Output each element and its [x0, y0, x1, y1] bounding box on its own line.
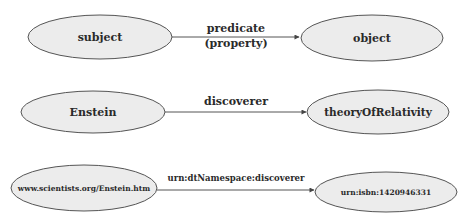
subject-node-label: Enstein	[70, 106, 117, 119]
object-node-label: object	[353, 32, 392, 45]
object-node-label: urn:isbn:1420946331	[341, 188, 431, 197]
triple-row-3: www.scientists.org/Enstein.htm urn:dtNam…	[11, 165, 457, 212]
predicate-sublabel: (property)	[204, 37, 267, 50]
subject-node-label: www.scientists.org/Enstein.htm	[17, 184, 150, 193]
subject-node-label: subject	[78, 31, 124, 44]
triple-row-1: subject predicate (property) object	[28, 15, 443, 61]
predicate-label: discoverer	[204, 95, 268, 108]
object-node-label: theoryOfRelativity	[324, 106, 432, 118]
rdf-triple-diagram: subject predicate (property) object Enst…	[0, 0, 469, 222]
triple-row-2: Enstein discoverer theoryOfRelativity	[21, 90, 449, 134]
predicate-label: predicate	[207, 22, 265, 35]
predicate-label: urn:dtNamespace:discoverer	[168, 173, 306, 183]
